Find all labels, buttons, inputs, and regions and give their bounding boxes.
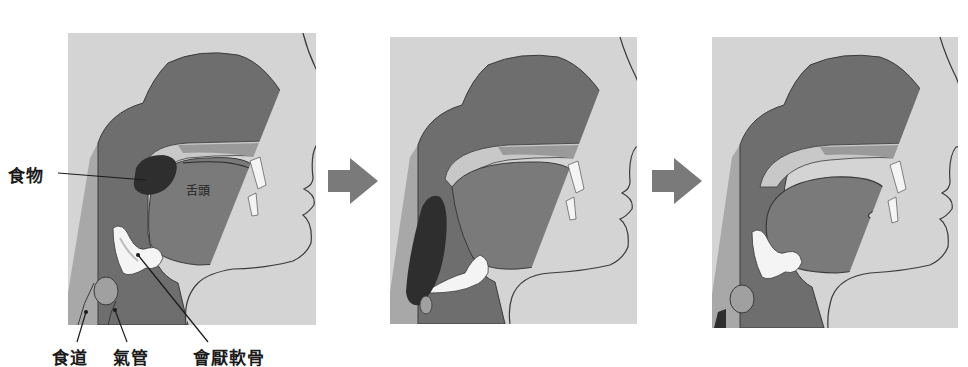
throat-cross-section-illustration bbox=[68, 33, 316, 325]
arrow-right-icon bbox=[650, 156, 706, 206]
epiglottis-label: 會厭軟骨 bbox=[193, 344, 265, 367]
diagram-panel-step-1: 舌頭 bbox=[68, 33, 316, 325]
trachea-label: 氣管 bbox=[113, 344, 149, 367]
tongue-label: 舌頭 bbox=[186, 181, 210, 198]
food-label: 食物 bbox=[8, 162, 44, 187]
throat-cross-section-illustration bbox=[390, 37, 637, 324]
diagram-panel-step-3 bbox=[712, 37, 958, 328]
esophagus-label: 食道 bbox=[52, 344, 88, 367]
diagram-panel-step-2 bbox=[390, 37, 637, 324]
arrow-right-icon bbox=[326, 156, 382, 206]
throat-cross-section-illustration bbox=[712, 37, 958, 328]
